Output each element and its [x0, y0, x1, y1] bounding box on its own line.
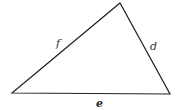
triangle-diagram: f d e: [0, 0, 177, 110]
side-label-f: f: [55, 37, 62, 50]
side-label-d: d: [150, 40, 157, 53]
triangle: [12, 3, 170, 94]
side-label-e: e: [96, 97, 103, 110]
